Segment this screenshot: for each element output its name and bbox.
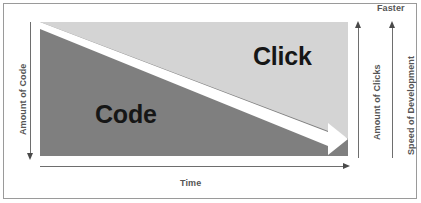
faster-annotation: Faster: [377, 3, 405, 13]
left-axis-arrow-down-icon: [27, 153, 33, 160]
right-secondary-axis-label: Speed of Development: [406, 56, 416, 155]
right-secondary-axis-line: [392, 28, 393, 158]
right-primary-axis-arrow-up-icon: [355, 21, 361, 28]
right-primary-axis-label: Amount of Clicks: [372, 64, 382, 140]
left-axis-line: [30, 22, 31, 154]
bottom-axis-arrow-right-icon: [343, 163, 350, 169]
plot-area: Code Click: [40, 22, 348, 156]
diagram-root: Amount of Code Code Click Time Amount of…: [0, 0, 421, 203]
right-secondary-axis-arrow-up-icon: [389, 21, 395, 28]
bottom-axis-label: Time: [180, 178, 201, 188]
click-region-label: Click: [253, 42, 312, 71]
right-primary-axis-line: [358, 28, 359, 158]
bottom-axis-line: [40, 166, 344, 167]
left-axis-label: Amount of Code: [18, 64, 28, 135]
code-region-label: Code: [95, 100, 157, 129]
